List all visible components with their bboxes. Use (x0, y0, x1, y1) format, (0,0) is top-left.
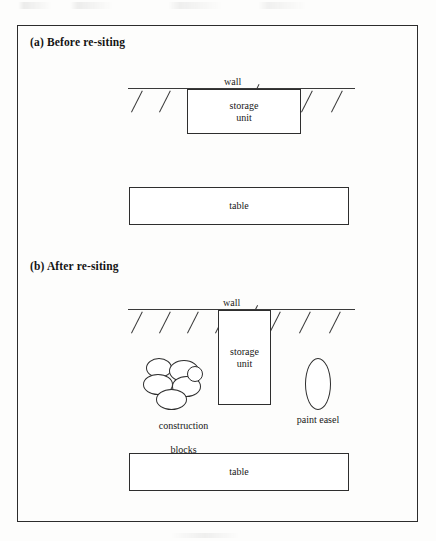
panel-a-title: (a) Before re-siting (30, 36, 125, 48)
storage-unit-label-line2: unit (237, 358, 253, 370)
page-bottom-text-bleed (170, 533, 240, 538)
block-ellipse (156, 389, 187, 410)
wall-hatch-icon (131, 312, 143, 334)
paint-easel-shape (305, 358, 331, 410)
wall-hatch-icon (187, 312, 199, 334)
table-shape-b: table (129, 453, 349, 491)
construction-blocks-caption: construction blocks (126, 408, 241, 456)
storage-unit-label-line1: storage (230, 346, 259, 358)
wall-hatch-icon (329, 312, 341, 334)
wall-hatch-icon (301, 91, 313, 113)
construction-blocks-label-line1: construction (159, 420, 208, 431)
wall-hatch-icon (159, 91, 171, 113)
table-label-a: table (229, 200, 248, 212)
storage-unit-shape-b: storage unit (218, 310, 271, 405)
panel-before-re-siting: (a) Before re-siting wall storage unit (18, 26, 419, 254)
storage-unit-label-line1: storage (230, 100, 259, 112)
wall-label-b: wall (221, 297, 242, 308)
page-top-text-bleed (18, 2, 318, 9)
wall-hatch-icon (299, 312, 311, 334)
table-label-b: table (229, 466, 248, 478)
scanned-page-background: (a) Before re-siting wall storage unit (0, 0, 436, 541)
panel-b-title: (b) After re-siting (30, 260, 119, 272)
block-ellipse (187, 366, 203, 382)
wall-hatch-icon (131, 91, 143, 113)
paint-easel-caption: paint easel (282, 414, 354, 426)
construction-blocks-shape (143, 358, 223, 410)
storage-unit-label-line2: unit (236, 112, 252, 124)
storage-unit-shape-a: storage unit (187, 89, 301, 134)
figure-frame: (a) Before re-siting wall storage unit (17, 25, 418, 522)
panel-after-re-siting: (b) After re-siting wall (18, 254, 419, 523)
wall-hatch-icon (159, 312, 171, 334)
table-shape-a: table (129, 187, 349, 225)
wall-label-a: wall (222, 76, 243, 87)
wall-hatch-icon (331, 91, 343, 113)
